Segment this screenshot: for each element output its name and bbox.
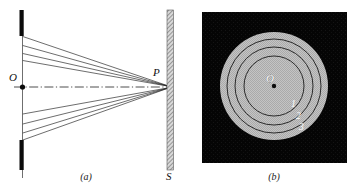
label-ring-2: 2 [296,111,301,121]
label-screen-s: S [166,170,172,182]
aperture-barrier-upper [20,10,24,36]
source-point-dot [20,84,25,89]
aperture-barrier-lower [20,140,24,170]
pattern-center-dot [272,84,276,88]
screen-bar [167,10,174,170]
caption-panel-b: (b) [268,171,280,183]
label-center-o: O [266,72,274,84]
optics-figure: O P S (a) O [0,0,364,190]
label-source-o: O [9,71,17,83]
figure-canvas: O P S (a) O [0,0,364,190]
caption-panel-a: (a) [80,171,92,183]
label-ring-3: 3 [298,122,304,132]
panel-b: O 1 2 3 (b) [202,12,347,183]
label-ring-1: 1 [291,99,296,109]
label-focus-p: P [152,66,160,78]
